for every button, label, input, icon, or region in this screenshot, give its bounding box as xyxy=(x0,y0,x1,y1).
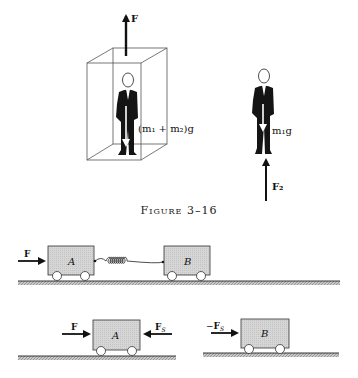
force-up-label: F xyxy=(131,13,138,24)
ground-track xyxy=(18,281,340,285)
cart-a-label: A xyxy=(67,256,75,267)
person-free-body-diagram: m₁g F₂ xyxy=(252,69,292,201)
ground-track-b xyxy=(203,353,339,357)
ground-track-a xyxy=(18,356,176,360)
person-weight-label: m₁g xyxy=(272,125,292,136)
cart-b: B xyxy=(164,246,210,281)
figure-caption: Figure 3–16 xyxy=(0,204,358,217)
cart-a-applied-force-label: F xyxy=(71,322,78,332)
spring xyxy=(94,257,165,263)
cart-b-fb-label: B xyxy=(260,328,268,339)
cart-b-label: B xyxy=(183,256,191,267)
cart-a-fb-label: A xyxy=(111,330,119,341)
cart-a: A xyxy=(48,246,94,281)
person-figure xyxy=(252,69,274,154)
applied-force-label: F xyxy=(24,249,31,259)
cart-system-diagram: A B F xyxy=(18,246,340,285)
combined-weight-label: (m₁ + m₂)g xyxy=(138,123,195,134)
spring-force-on-b-label: −FS xyxy=(206,321,224,332)
figure-canvas: F (m₁ + m₂)g m₁g F₂ A xyxy=(0,0,358,378)
normal-force-label: F₂ xyxy=(272,181,283,192)
cart-a-free-body: A F FS xyxy=(18,320,176,360)
person-figure-elevator xyxy=(116,73,138,155)
elevator-diagram: F (m₁ + m₂)g xyxy=(87,13,195,160)
spring-force-on-a-label: FS xyxy=(155,322,166,333)
cart-b-free-body: B −FS xyxy=(203,319,339,357)
